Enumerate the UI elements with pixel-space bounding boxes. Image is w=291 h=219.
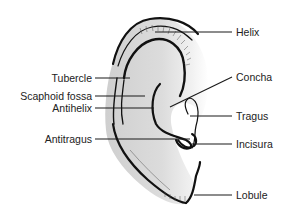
ear-illustration bbox=[105, 18, 208, 204]
label-tubercle: Tubercle bbox=[52, 72, 93, 84]
label-incisura: Incisura bbox=[236, 138, 273, 150]
label-tragus: Tragus bbox=[236, 110, 268, 122]
label-antihelix: Antihelix bbox=[52, 102, 92, 114]
ear-anatomy-diagram: Helix Concha Tragus Incisura Lobule Tube… bbox=[0, 0, 291, 219]
label-antitragus: Antitragus bbox=[45, 133, 92, 145]
labels-right: Helix Concha Tragus Incisura Lobule bbox=[236, 26, 273, 201]
labels-left: Tubercle Scaphoid fossa Antihelix Antitr… bbox=[20, 72, 93, 145]
label-lobule: Lobule bbox=[236, 189, 268, 201]
label-helix: Helix bbox=[236, 26, 260, 38]
label-concha: Concha bbox=[236, 71, 272, 83]
ear-body bbox=[105, 19, 208, 204]
label-scaphoid-fossa: Scaphoid fossa bbox=[20, 90, 92, 102]
